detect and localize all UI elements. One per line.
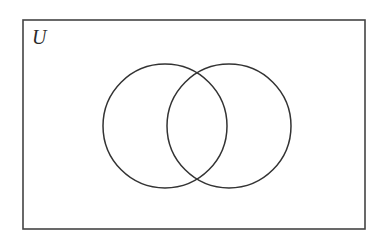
set-a-circle [103,64,227,188]
universe-rectangle [23,20,365,229]
venn-diagram: U [0,0,387,238]
set-b-circle [167,64,291,188]
universe-label: U [32,26,48,48]
